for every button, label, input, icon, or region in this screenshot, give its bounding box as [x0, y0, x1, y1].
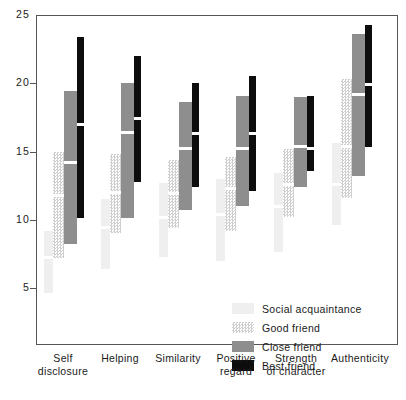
- chart-root: 510152025 Social acquaintanceGood friend…: [0, 0, 406, 400]
- median-marker: [274, 205, 283, 208]
- legend-label: Social acquaintance: [262, 303, 362, 315]
- legend-swatch: [232, 303, 254, 314]
- range-bar: [307, 96, 314, 171]
- y-tick-label: 25: [4, 8, 30, 20]
- median-marker: [283, 183, 294, 186]
- range-bar: [236, 96, 249, 207]
- median-marker: [341, 145, 352, 148]
- range-bar: [192, 83, 199, 187]
- median-marker: [307, 147, 314, 150]
- range-bar: [110, 154, 121, 233]
- y-tick-label: 5: [4, 281, 30, 293]
- median-marker: [332, 183, 341, 186]
- median-marker: [77, 123, 84, 126]
- range-bar: [216, 179, 225, 261]
- median-marker: [121, 131, 134, 134]
- range-bar: [159, 183, 168, 257]
- range-bar: [101, 199, 110, 269]
- median-marker: [101, 226, 110, 229]
- median-marker: [179, 147, 192, 150]
- median-marker: [249, 132, 256, 135]
- median-marker: [44, 256, 53, 259]
- range-bar: [294, 97, 307, 187]
- x-axis-label: Authenticity: [315, 352, 405, 365]
- median-marker: [110, 191, 121, 194]
- legend-item: Social acquaintance: [232, 300, 362, 317]
- legend-swatch: [232, 322, 254, 333]
- median-marker: [168, 192, 179, 195]
- x-axis-label-line: Authenticity: [315, 352, 405, 365]
- median-marker: [225, 187, 236, 190]
- median-marker: [64, 161, 77, 164]
- y-axis-labels: 510152025: [0, 0, 30, 400]
- x-axis-label-line: of character: [251, 365, 341, 378]
- range-bar: [332, 143, 341, 225]
- median-marker: [134, 117, 141, 120]
- legend-label: Close friend: [262, 341, 322, 353]
- range-bar: [274, 173, 283, 252]
- range-bar: [121, 83, 134, 218]
- range-bar: [341, 79, 352, 198]
- y-tick-label: 10: [4, 213, 30, 225]
- median-marker: [365, 83, 372, 86]
- range-bar: [179, 102, 192, 210]
- range-bar: [283, 149, 294, 217]
- legend-label: Good friend: [262, 322, 320, 334]
- range-bar: [352, 34, 365, 176]
- median-marker: [236, 147, 249, 150]
- y-tick-label: 15: [4, 145, 30, 157]
- legend-swatch: [232, 341, 254, 352]
- median-marker: [294, 145, 307, 148]
- range-bar: [168, 160, 179, 228]
- range-bar: [44, 231, 53, 294]
- y-tick-label: 20: [4, 76, 30, 88]
- range-bar: [365, 25, 372, 148]
- plot-area: [36, 15, 398, 345]
- median-marker: [352, 93, 365, 96]
- range-bar: [225, 157, 236, 231]
- range-bar: [134, 56, 141, 182]
- range-bar: [77, 37, 84, 219]
- median-marker: [192, 132, 199, 135]
- legend-item: Good friend: [232, 319, 362, 336]
- median-marker: [216, 213, 225, 216]
- median-marker: [53, 194, 64, 197]
- range-bar: [249, 76, 256, 191]
- x-axis-label-line: disclosure: [18, 365, 108, 378]
- median-marker: [159, 216, 168, 219]
- range-bar: [64, 91, 77, 244]
- range-bar: [53, 152, 64, 258]
